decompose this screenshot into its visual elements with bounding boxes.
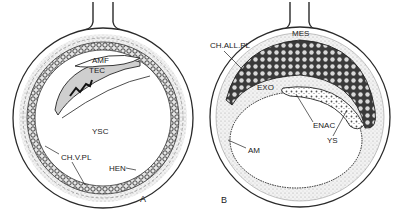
label-challpl: CH.ALL.PL: [210, 41, 251, 50]
panel-label-b: B: [221, 195, 227, 205]
label-hen: HEN: [109, 164, 126, 173]
panel-a: AMF TEC YSC CH.V.PL HEN A: [13, 2, 193, 208]
label-enac: ENAC: [313, 121, 335, 130]
label-ys: YS: [327, 136, 338, 145]
label-am: AM: [248, 146, 260, 155]
panel-label-a: A: [140, 194, 146, 204]
label-chvpl: CH.V.PL: [61, 153, 92, 162]
label-amf: AMF: [92, 56, 109, 65]
panel-b: MES CH.ALL.PL EXO ENAC AM YS B: [210, 2, 390, 207]
label-mes: MES: [292, 29, 309, 38]
label-exo: EXO: [257, 83, 274, 92]
embryo-diagram: AMF TEC YSC CH.V.PL HEN A MES CH.ALL.PL …: [0, 0, 393, 217]
label-tec: TEC: [89, 66, 105, 75]
label-ysc: YSC: [92, 127, 109, 136]
